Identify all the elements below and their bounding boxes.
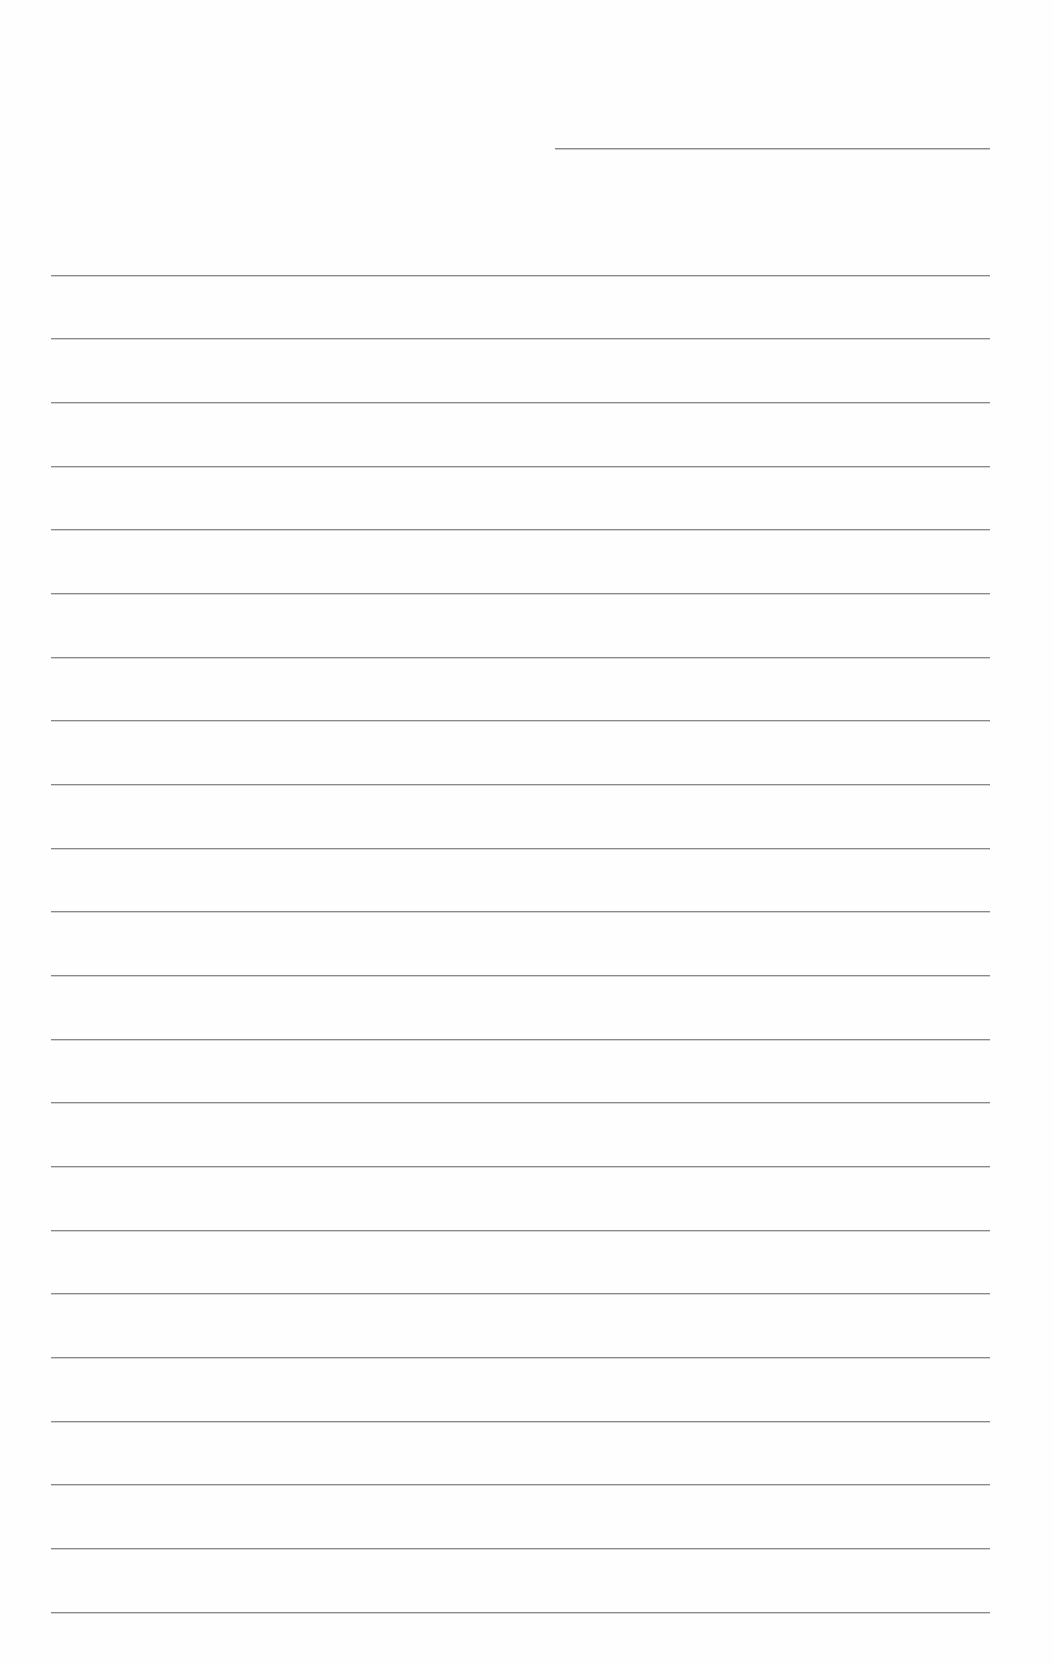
header-date-line [555, 148, 990, 150]
ruled-line [51, 975, 990, 977]
ruled-line [51, 402, 990, 404]
ruled-line [51, 911, 990, 913]
ruled-line [51, 657, 990, 659]
ruled-line [51, 275, 990, 277]
ruled-line [51, 1102, 990, 1104]
ruled-line [51, 1421, 990, 1423]
ruled-line [51, 1166, 990, 1168]
ruled-line [51, 1548, 990, 1550]
ruled-line [51, 848, 990, 850]
ruled-line [51, 1039, 990, 1041]
ruled-line [51, 1612, 990, 1614]
ruled-line [51, 1484, 990, 1486]
ruled-line [51, 784, 990, 786]
ruled-line [51, 338, 990, 340]
ruled-line [51, 1293, 990, 1295]
ruled-line [51, 593, 990, 595]
ruled-line [51, 1230, 990, 1232]
ruled-line [51, 1357, 990, 1359]
ruled-line [51, 466, 990, 468]
ruled-line [51, 720, 990, 722]
ruled-line [51, 529, 990, 531]
notebook-page [0, 0, 1053, 1663]
